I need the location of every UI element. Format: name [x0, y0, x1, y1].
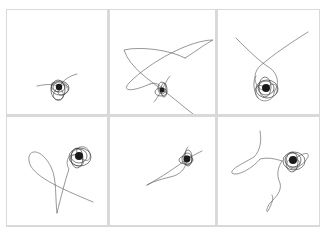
trajectory-panel-r1c1 [7, 10, 107, 114]
spiral-core [159, 87, 164, 92]
trajectory-trace [254, 76, 258, 98]
trajectory-panel-r1c3 [218, 10, 319, 114]
trajectory-plot [7, 10, 107, 114]
trajectory-trace [232, 131, 282, 174]
trajectory-trace [126, 40, 213, 90]
trajectory-trace [37, 85, 57, 87]
trajectory-panel-r2c1 [7, 117, 107, 225]
spiral-core [75, 152, 83, 160]
trajectory-plot [218, 117, 319, 225]
spiral-core [184, 156, 191, 163]
trajectory-panel-r1c2 [110, 10, 215, 114]
spiral-core [56, 84, 62, 90]
trajectory-panel-r2c2 [110, 117, 215, 225]
trajectory-trace [57, 155, 79, 213]
trajectory-plot [7, 117, 107, 225]
spiral-core [262, 84, 270, 92]
trajectory-plot [110, 10, 215, 114]
trajectory-trace [147, 151, 202, 185]
spiral-core [289, 156, 297, 164]
trajectory-trace [236, 38, 277, 92]
trajectory-plot [110, 117, 215, 225]
trajectory-trace [267, 161, 282, 212]
figure-grid [6, 9, 320, 227]
trajectory-plot [218, 10, 319, 114]
trajectory-panel-r2c3 [218, 117, 319, 225]
trajectory-trace [124, 48, 185, 90]
